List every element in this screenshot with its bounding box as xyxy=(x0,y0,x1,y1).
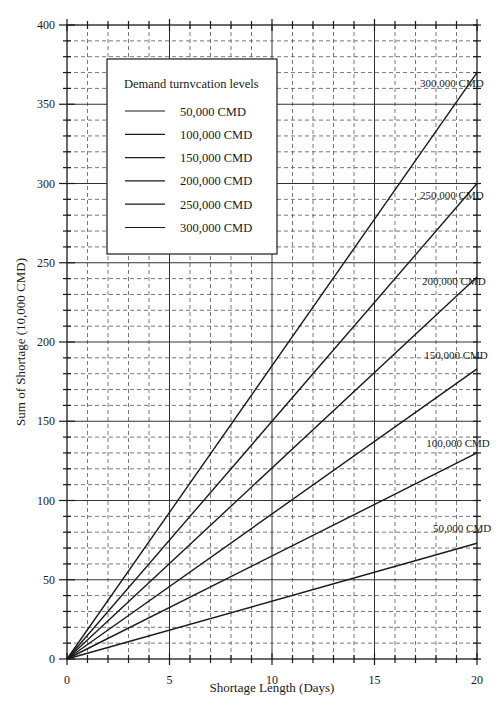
y-tick-label: 350 xyxy=(37,97,55,111)
y-tick-label: 100 xyxy=(37,494,55,508)
y-tick-label: 150 xyxy=(37,414,55,428)
x-tick-label: 15 xyxy=(369,673,381,687)
y-tick-label: 0 xyxy=(49,652,55,666)
legend-entry-label: 100,000 CMD xyxy=(180,128,252,142)
series-label: 200,000 CMD xyxy=(422,275,486,287)
series-label: 300,000 CMD xyxy=(420,77,484,89)
y-tick-label: 400 xyxy=(37,18,55,32)
y-axis-tick-labels: 050100150200250300350400 xyxy=(37,18,55,666)
legend-entry-label: 250,000 CMD xyxy=(180,198,252,212)
y-axis-title: Sum of Shortage (10,000 CMD) xyxy=(13,258,28,426)
series-label: 150,000 CMD xyxy=(424,349,488,361)
y-tick-label: 200 xyxy=(37,335,55,349)
y-tick-label: 300 xyxy=(37,177,55,191)
line-chart: 50,000 CMD100,000 CMD150,000 CMD200,000 … xyxy=(0,0,504,715)
legend-entry-label: 200,000 CMD xyxy=(180,174,252,188)
legend-entry-label: 50,000 CMD xyxy=(180,105,246,119)
x-tick-label: 0 xyxy=(64,673,70,687)
legend-entry-label: 150,000 CMD xyxy=(180,151,252,165)
x-axis-title: Shortage Length (Days) xyxy=(210,680,335,695)
x-tick-label: 5 xyxy=(167,673,173,687)
y-tick-label: 50 xyxy=(43,573,55,587)
y-tick-label: 250 xyxy=(37,256,55,270)
legend-title: Demand turnvcation levels xyxy=(124,77,259,91)
series-labels: 50,000 CMD100,000 CMD150,000 CMD200,000 … xyxy=(420,77,491,534)
legend: Demand turnvcation levels 50,000 CMD100,… xyxy=(107,59,277,254)
series-label: 250,000 CMD xyxy=(420,189,484,201)
legend-entry-label: 300,000 CMD xyxy=(180,221,252,235)
series-label: 50,000 CMD xyxy=(433,522,491,534)
x-tick-label: 20 xyxy=(471,673,483,687)
series-label: 100,000 CMD xyxy=(426,437,490,449)
